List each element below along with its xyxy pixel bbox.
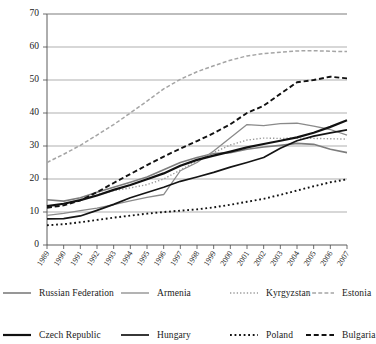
x-tick-label: 1994	[118, 249, 134, 267]
data-series	[47, 51, 347, 226]
legend-row: Czech RepublicHungaryPolandBulgaria	[0, 303, 375, 323]
x-tick-label: 2001	[235, 249, 251, 267]
x-tick-label: 1991	[68, 249, 84, 267]
x-tick-label: 1999	[202, 249, 218, 267]
series-line-poland	[47, 179, 347, 225]
x-tick-label: 2007	[335, 249, 351, 267]
legend-swatch-solid	[0, 329, 34, 341]
legend-item-bulgaria[interactable]: Bulgaria	[303, 325, 376, 344]
legend-label: Estonia	[342, 288, 371, 298]
legend-label: Czech Republic	[39, 330, 101, 340]
series-line-bulgaria	[47, 77, 347, 208]
x-tick-label: 1996	[152, 249, 168, 267]
legend-swatch-solid	[118, 329, 152, 341]
y-tick-label: 30	[30, 140, 40, 150]
y-tick-label: 20	[30, 173, 40, 183]
legend-label: Poland	[266, 330, 293, 340]
legend-swatch-dotted	[227, 329, 261, 341]
legend-swatch-dashed-long	[303, 329, 337, 341]
legend-swatch-solid	[118, 287, 152, 299]
x-tick-label: 2002	[252, 249, 268, 267]
legend-label: Hungary	[157, 330, 191, 340]
x-tick-label: 1997	[168, 249, 184, 267]
y-tick-label: 10	[30, 206, 40, 216]
series-line-russian-federation	[47, 143, 347, 201]
legend-swatch-dashed-long	[303, 287, 337, 299]
x-tick-label: 2006	[318, 249, 334, 267]
y-tick-label: 50	[30, 74, 40, 84]
legend-item-poland[interactable]: Poland	[227, 325, 293, 344]
y-tick-label: 0	[34, 239, 39, 249]
x-tick-label: 2005	[302, 249, 318, 267]
legend-label: Armenia	[157, 288, 191, 298]
legend-item-estonia[interactable]: Estonia	[303, 283, 371, 303]
y-tick-label: 40	[30, 107, 40, 117]
chart-legend: Russian FederationArmeniaKyrgyzstanEston…	[0, 283, 375, 327]
axes	[47, 14, 347, 245]
plot-area: 010203040506070 198919901991199219931994…	[0, 0, 375, 260]
y-tick-label: 60	[30, 41, 40, 51]
x-tick-label: 1993	[102, 249, 118, 267]
legend-swatch-dotted	[227, 287, 261, 299]
y-tick-label: 70	[30, 8, 40, 18]
x-tick-label: 1990	[52, 249, 68, 267]
x-tick-label: 1995	[135, 249, 151, 267]
legend-swatch-solid	[0, 287, 34, 299]
line-chart-svg: 010203040506070 198919901991199219931994…	[0, 0, 375, 285]
legend-label: Russian Federation	[39, 288, 114, 298]
legend-item-czech-republic[interactable]: Czech Republic	[0, 325, 101, 344]
x-tick-label: 1992	[85, 249, 101, 267]
legend-item-russian-federation[interactable]: Russian Federation	[0, 283, 114, 303]
x-axis-ticks: 1989199019911992199319941995199619971998…	[35, 245, 351, 268]
x-tick-label: 2000	[218, 249, 234, 267]
x-tick-label: 2003	[268, 249, 284, 267]
y-axis-ticks: 010203040506070	[30, 8, 48, 249]
legend-item-kyrgyzstan[interactable]: Kyrgyzstan	[227, 283, 311, 303]
gridlines	[47, 14, 347, 212]
x-tick-label: 1989	[35, 249, 51, 267]
legend-item-armenia[interactable]: Armenia	[118, 283, 191, 303]
legend-row: Russian FederationArmeniaKyrgyzstanEston…	[0, 283, 375, 303]
legend-label: Bulgaria	[342, 330, 376, 340]
x-tick-label: 2004	[285, 249, 301, 267]
x-tick-label: 1998	[185, 249, 201, 267]
legend-item-hungary[interactable]: Hungary	[118, 325, 191, 344]
